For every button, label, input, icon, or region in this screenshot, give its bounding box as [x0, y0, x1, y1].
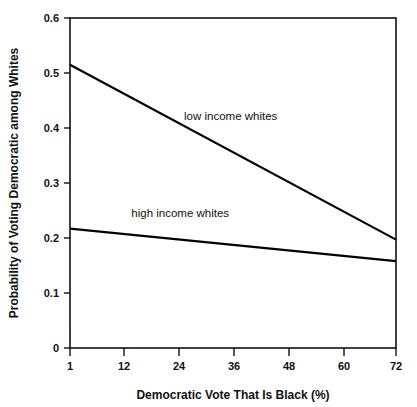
x-axis-title: Democratic Vote That Is Black (%): [136, 388, 329, 402]
y-axis-title: Probability of Voting Democratic among W…: [7, 47, 21, 318]
y-tick-label: 0.4: [44, 122, 60, 134]
x-tick-label: 36: [228, 360, 240, 372]
x-tick-label: 1: [67, 360, 73, 372]
x-tick-label: 24: [173, 360, 186, 372]
series-line-low-income-whites: [70, 65, 396, 240]
series-annotation-low-income-whites: low income whites: [184, 110, 278, 122]
y-tick-label: 0.3: [44, 177, 59, 189]
x-tick-label: 72: [390, 360, 402, 372]
y-tick-label: 0.6: [44, 12, 59, 24]
x-tick-label: 60: [338, 360, 350, 372]
x-axis-ticks: [70, 348, 396, 356]
series-annotation-high-income-whites: high income whites: [131, 207, 229, 219]
plot-frame: [70, 18, 396, 348]
y-axis-ticks: [64, 18, 70, 348]
y-tick-label: 0.1: [44, 287, 59, 299]
series-line-high-income-whites: [70, 229, 396, 261]
y-tick-label: 0.5: [44, 67, 59, 79]
line-chart: 0.6 0.5 0.4 0.3 0.2 0.1 0 1 12 24 36 48 …: [0, 0, 417, 407]
x-tick-label: 48: [283, 360, 295, 372]
y-tick-label: 0: [53, 342, 59, 354]
x-tick-label: 12: [118, 360, 130, 372]
y-tick-label: 0.2: [44, 232, 59, 244]
chart-figure: 0.6 0.5 0.4 0.3 0.2 0.1 0 1 12 24 36 48 …: [0, 0, 417, 407]
